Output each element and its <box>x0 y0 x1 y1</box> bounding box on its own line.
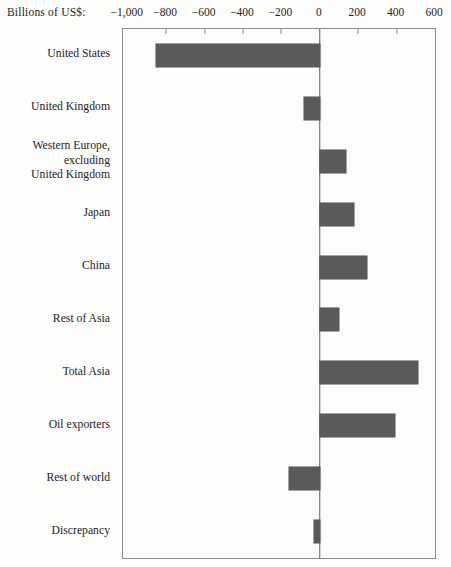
category-label: Oil exporters <box>0 418 110 432</box>
category-label: Japan <box>0 206 110 220</box>
bar <box>320 361 418 384</box>
x-tick-label: 400 <box>387 6 404 18</box>
category-labels: United StatesUnited KingdomWestern Europ… <box>0 28 116 557</box>
bar <box>320 256 367 279</box>
x-tick-label: −1,000 <box>111 6 143 18</box>
bar <box>320 308 339 331</box>
x-tick-mark <box>281 29 282 34</box>
x-tick-mark <box>396 29 397 34</box>
x-tick-mark <box>243 29 244 34</box>
bar <box>304 97 319 120</box>
x-tick-mark <box>166 29 167 34</box>
x-tick-label: −200 <box>269 6 293 18</box>
axis-units-title: Billions of US$: <box>7 6 86 18</box>
category-label: Rest of Asia <box>0 312 110 326</box>
x-tick-label: 600 <box>425 6 442 18</box>
bar <box>314 520 320 543</box>
category-label: Discrepancy <box>0 523 110 537</box>
bar <box>289 467 320 490</box>
x-tick-mark <box>358 29 359 34</box>
x-tick-mark <box>204 29 205 34</box>
bar <box>320 203 355 226</box>
category-label: China <box>0 259 110 273</box>
category-label: United States <box>0 47 110 61</box>
x-tick-label: 0 <box>316 6 322 18</box>
bar <box>320 414 395 437</box>
x-tick-label: 200 <box>349 6 366 18</box>
bar <box>156 44 320 67</box>
x-tick-label: −600 <box>192 6 216 18</box>
category-label: Rest of world <box>0 471 110 485</box>
category-label: Western Europe, excluding United Kingdom <box>0 139 110 182</box>
bar <box>320 150 346 173</box>
x-tick-label: −400 <box>230 6 254 18</box>
bar-chart-figure: Billions of US$: United StatesUnited Kin… <box>0 0 451 567</box>
plot-area <box>122 28 436 559</box>
category-label: United Kingdom <box>0 100 110 114</box>
x-tick-label: −800 <box>153 6 177 18</box>
category-label: Total Asia <box>0 365 110 379</box>
